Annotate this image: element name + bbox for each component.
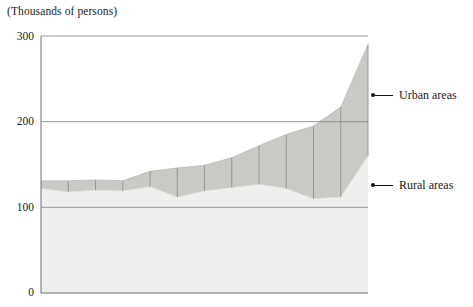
legend-leader-line-icon: [375, 95, 393, 96]
legend-leader-line-icon: [375, 185, 393, 186]
legend-item-rural-areas: Rural areas: [371, 178, 453, 192]
plot-area: [0, 0, 473, 307]
legend-label-rural: Rural areas: [399, 178, 453, 192]
legend-label-urban: Urban areas: [399, 88, 457, 102]
chart-container: (Thousands of persons) 300 200 100 0 Urb…: [0, 0, 473, 307]
legend-item-urban-areas: Urban areas: [371, 88, 457, 102]
